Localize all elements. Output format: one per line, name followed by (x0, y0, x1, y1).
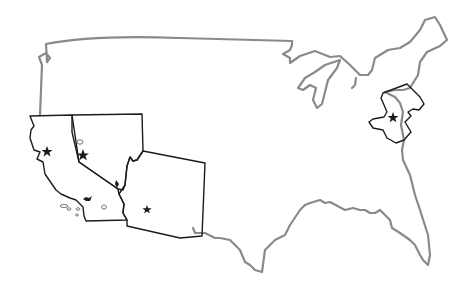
lake-tahoe (77, 140, 83, 144)
capital-markers (42, 112, 399, 214)
state-new-jersey[interactable] (369, 84, 424, 143)
channel-islands (60, 205, 80, 217)
star-icon-arizona[interactable] (142, 205, 151, 214)
star-icon-new-jersey[interactable] (388, 112, 399, 122)
state-california[interactable] (30, 115, 127, 221)
salton-sea (102, 205, 107, 209)
la-area-icon (83, 196, 92, 201)
lake-shore (352, 78, 356, 88)
star-icon-california[interactable] (42, 146, 53, 157)
us-country-outline (39, 17, 447, 272)
state-arizona[interactable] (119, 151, 205, 238)
lake-michigan (298, 60, 340, 108)
us-map (0, 0, 472, 304)
